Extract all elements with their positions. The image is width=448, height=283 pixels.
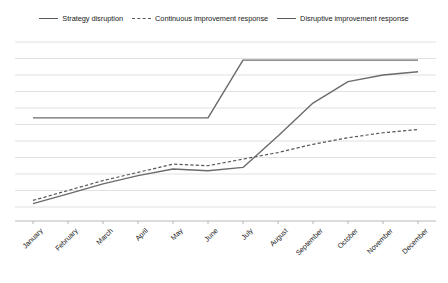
series-line-1 xyxy=(33,129,418,200)
series-line-0 xyxy=(33,60,418,118)
plot-canvas xyxy=(0,0,448,283)
plot-area xyxy=(0,0,448,283)
gridlines xyxy=(15,42,436,207)
line-chart: Strategy disruption Continuous improveme… xyxy=(0,0,448,283)
series-lines xyxy=(33,60,418,204)
